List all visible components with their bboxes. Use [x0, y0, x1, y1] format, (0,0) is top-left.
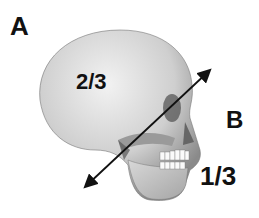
teeth [160, 150, 189, 169]
skull-proportion-diagram: A 2/3 B 1/3 [0, 0, 259, 218]
label-lower-ratio: 1/3 [200, 163, 236, 189]
label-b: B [226, 108, 243, 132]
eye-socket [163, 94, 181, 122]
label-a: A [10, 13, 29, 39]
label-upper-ratio: 2/3 [76, 71, 107, 93]
